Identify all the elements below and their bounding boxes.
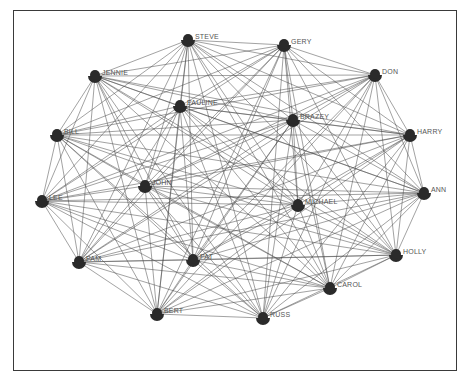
node-label: BRAZEY	[300, 113, 329, 120]
edge	[298, 75, 375, 205]
node-circle-icon	[405, 129, 415, 139]
node-circle-icon	[288, 114, 298, 124]
edge	[57, 135, 193, 260]
edge	[188, 40, 396, 255]
node-circle-icon	[279, 39, 289, 49]
node-circle-icon	[37, 195, 47, 205]
edge	[157, 45, 284, 314]
node-label: HOLLY	[403, 248, 427, 255]
node-brazey[interactable]: BRAZEY	[286, 113, 329, 127]
node-label: GERY	[291, 38, 312, 45]
node-label: CAROL	[337, 281, 362, 288]
node-circle-icon	[370, 69, 380, 79]
node-harry[interactable]: HARRY	[403, 128, 443, 142]
node-bert[interactable]: BERT	[150, 307, 184, 321]
node-circle-icon	[258, 312, 268, 322]
node-circle-icon	[183, 34, 193, 44]
node-label: STEVE	[195, 33, 219, 40]
node-label: PAT	[200, 253, 214, 260]
edge	[263, 120, 293, 318]
node-russ[interactable]: RUSS	[256, 311, 290, 325]
node-label: DON	[382, 68, 398, 75]
edge	[95, 76, 410, 135]
node-carol[interactable]: CAROL	[323, 281, 362, 295]
edge	[293, 120, 298, 205]
edge	[157, 314, 263, 318]
node-holly[interactable]: HOLLY	[389, 248, 427, 262]
network-diagram: STEVEGERYJENNIEDONPAULINEBRAZEYBILLHARRY…	[0, 0, 468, 380]
edge	[157, 120, 293, 314]
node-circle-icon	[90, 70, 100, 80]
node-label: BERT	[164, 307, 184, 314]
node-circle-icon	[74, 256, 84, 266]
node-circle-icon	[419, 187, 429, 197]
edge	[180, 106, 330, 288]
edge	[145, 186, 157, 314]
edge	[57, 120, 293, 135]
node-label: LEE	[49, 194, 63, 201]
node-circle-icon	[325, 282, 335, 292]
node-circle-icon	[293, 199, 303, 209]
node-circle-icon	[188, 254, 198, 264]
edge	[57, 40, 188, 135]
edge	[57, 135, 396, 255]
edge	[375, 75, 410, 135]
node-label: HARRY	[417, 128, 443, 135]
node-don[interactable]: DON	[368, 68, 398, 82]
node-label: JENNIE	[102, 69, 128, 76]
edge	[95, 76, 157, 314]
node-label: RUSS	[270, 311, 290, 318]
node-label: ANN	[431, 186, 446, 193]
edge	[95, 76, 293, 120]
node-pat[interactable]: PAT	[186, 253, 214, 267]
node-circle-icon	[52, 129, 62, 139]
edge	[42, 135, 57, 201]
node-circle-icon	[391, 249, 401, 259]
edge	[396, 193, 424, 255]
edge	[263, 45, 284, 318]
edge	[57, 135, 157, 314]
edge	[145, 186, 298, 205]
node-label: BILL	[64, 128, 79, 135]
edge	[284, 45, 330, 288]
edge	[193, 260, 263, 318]
edge	[188, 40, 298, 205]
edge	[57, 76, 95, 135]
edge	[375, 75, 396, 255]
edges	[42, 40, 424, 318]
node-label: PAULINE	[187, 99, 218, 106]
edge	[95, 76, 396, 255]
node-circle-icon	[175, 100, 185, 110]
edge	[145, 120, 293, 186]
node-circle-icon	[152, 308, 162, 318]
node-gery[interactable]: GERY	[277, 38, 312, 52]
node-label: JOHN	[152, 179, 172, 186]
node-label: PAM	[86, 255, 101, 262]
edge	[42, 201, 193, 260]
node-circle-icon	[140, 180, 150, 190]
node-label: MICHAEL	[305, 198, 338, 205]
node-ann[interactable]: ANN	[417, 186, 446, 200]
edge	[42, 201, 330, 288]
